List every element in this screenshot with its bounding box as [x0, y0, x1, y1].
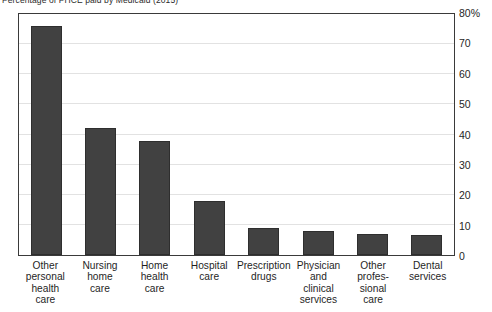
x-axis-label-line: profes-: [346, 271, 400, 282]
x-axis-label-line: Other: [18, 260, 72, 271]
bar-slot: [128, 14, 182, 255]
bar: [357, 234, 388, 255]
x-axis-label: Dentalservices: [401, 260, 455, 306]
bar-slot: [19, 14, 73, 255]
plot-area: [18, 13, 455, 256]
y-axis: 80%706050403020100: [459, 0, 492, 312]
y-axis-tick-30: 30: [459, 159, 471, 171]
bar-slot: [345, 14, 399, 255]
x-axis-label: Hospitalcare: [182, 260, 236, 306]
x-axis-label: Homehealthcare: [128, 260, 182, 306]
bar-slot: [237, 14, 291, 255]
x-axis-label: Otherprofes-sionalcare: [346, 260, 400, 306]
x-axis-label-line: sional: [346, 283, 400, 294]
x-axis-label: Physicianandclinicalservices: [291, 260, 345, 306]
bar: [248, 228, 279, 255]
x-axis-label-line: care: [73, 283, 127, 294]
y-axis-tick-20: 20: [459, 189, 471, 201]
x-axis-label-line: Dental: [401, 260, 455, 271]
x-axis-label-line: care: [18, 294, 72, 305]
x-axis-label-line: Other: [346, 260, 400, 271]
bar: [194, 201, 225, 255]
x-axis-label-line: care: [182, 271, 236, 282]
x-axis-labels: OtherpersonalhealthcareNursinghomecareHo…: [18, 260, 455, 306]
x-axis-label-line: Home: [128, 260, 182, 271]
chart-title: Percentage of PHCE paid by Medicaid (201…: [2, 0, 178, 5]
y-axis-tick-70: 70: [459, 37, 471, 49]
bar-slot: [74, 14, 128, 255]
bar: [303, 231, 334, 255]
x-axis-label-line: services: [291, 294, 345, 305]
x-axis-label: Otherpersonalhealthcare: [18, 260, 72, 306]
bar: [139, 141, 170, 255]
x-axis-label-line: Nursing: [73, 260, 127, 271]
bar-series: [19, 14, 454, 255]
y-axis-tick-50: 50: [459, 98, 471, 110]
bar: [31, 26, 62, 255]
x-axis-label-line: Physician: [291, 260, 345, 271]
x-axis-label-line: services: [401, 271, 455, 282]
x-axis-label-line: home: [73, 271, 127, 282]
y-axis-tick-10: 10: [459, 220, 471, 232]
bar: [411, 235, 442, 255]
x-axis-label: Nursinghomecare: [73, 260, 127, 306]
x-axis-label-line: personal: [18, 271, 72, 282]
bar-slot: [182, 14, 236, 255]
x-axis-label-line: Prescription: [237, 260, 291, 271]
x-axis-label: Prescriptiondrugs: [237, 260, 291, 306]
bar-slot: [400, 14, 454, 255]
y-axis-tick-0: 0: [459, 250, 465, 262]
x-axis-label-line: health: [128, 271, 182, 282]
x-axis-label-line: clinical: [291, 283, 345, 294]
bar-slot: [291, 14, 345, 255]
x-axis-label-line: Hospital: [182, 260, 236, 271]
x-axis-label-line: health: [18, 283, 72, 294]
y-axis-tick-40: 40: [459, 129, 471, 141]
x-axis-label-line: care: [128, 283, 182, 294]
bar-chart: Percentage of PHCE paid by Medicaid (201…: [0, 0, 492, 312]
bar: [85, 128, 116, 255]
x-axis-label-line: and: [291, 271, 345, 282]
y-axis-tick-80: 80%: [459, 7, 480, 19]
x-axis-label-line: care: [346, 294, 400, 305]
x-axis-label-line: drugs: [237, 271, 291, 282]
y-axis-tick-60: 60: [459, 68, 471, 80]
